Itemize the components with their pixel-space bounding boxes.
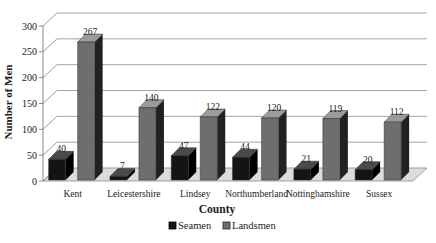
wall-diagonal-100	[43, 116, 57, 129]
value-label-seamen-leicestershire: 7	[120, 161, 125, 171]
x-axis-title: County	[199, 203, 236, 216]
value-label-seamen-lindsey: 47	[179, 141, 189, 151]
wall-diagonal-200	[43, 65, 57, 78]
y-tick-label-100: 100	[22, 124, 37, 135]
value-label-landsmen-kent: 267	[83, 27, 98, 37]
value-label-landsmen-northumberland: 120	[267, 103, 282, 113]
chart-canvas: 05010015020025030040267Kent7140Leicester…	[0, 0, 436, 243]
bar-landsmen-northumberland	[262, 118, 279, 180]
legend-swatch-landsmen	[223, 222, 230, 229]
value-label-seamen-kent: 40	[56, 144, 66, 154]
category-label-sussex: Sussex	[366, 189, 393, 199]
y-tick-label-300: 300	[22, 21, 37, 32]
bar-side-landsmen-northumberland	[279, 110, 287, 180]
value-label-seamen-sussex: 20	[363, 155, 373, 165]
legend-label-seamen: Seamen	[178, 220, 212, 231]
value-label-landsmen-leicestershire: 140	[144, 93, 159, 103]
y-tick-label-150: 150	[22, 98, 37, 109]
value-label-seamen-northumberland: 44	[240, 142, 250, 152]
bar-seamen-sussex	[355, 170, 372, 180]
value-label-landsmen-lindsey: 122	[206, 102, 221, 112]
bar-seamen-leicestershire	[110, 176, 127, 180]
wall-diagonal-250	[43, 39, 57, 52]
category-label-nottinghamshire: Nottinghamshire	[286, 189, 350, 199]
value-label-seamen-nottinghamshire: 21	[302, 154, 312, 164]
value-label-landsmen-sussex: 112	[390, 107, 404, 117]
bar-landsmen-leicestershire	[139, 108, 156, 180]
wall-diagonal-300	[43, 13, 57, 26]
value-label-landsmen-nottinghamshire: 119	[328, 104, 342, 114]
bar-side-landsmen-sussex	[401, 114, 409, 180]
y-axis-title: Number of Men	[2, 65, 14, 140]
bar-side-landsmen-leicestershire	[156, 100, 164, 180]
wall-diagonal-150	[43, 91, 57, 104]
category-label-northumberland: Northumberland	[225, 189, 288, 199]
bar-landsmen-lindsey	[200, 117, 217, 180]
bar-seamen-northumberland	[233, 157, 250, 180]
y-tick-label-250: 250	[22, 46, 37, 57]
y-tick-label-200: 200	[22, 72, 37, 83]
y-tick-label-50: 50	[27, 150, 37, 161]
bar-side-landsmen-nottinghamshire	[340, 111, 348, 180]
bar-landsmen-sussex	[384, 122, 401, 180]
bar-seamen-nottinghamshire	[294, 169, 311, 180]
bar-landsmen-nottinghamshire	[323, 119, 340, 180]
bar-seamen-lindsey	[171, 156, 188, 180]
category-label-leicestershire: Leicestershire	[107, 189, 160, 199]
legend-swatch-seamen	[169, 222, 176, 229]
bar-chart-3d: 05010015020025030040267Kent7140Leicester…	[0, 0, 436, 243]
bar-landsmen-kent	[78, 42, 95, 180]
category-label-kent: Kent	[63, 189, 82, 199]
category-label-lindsey: Lindsey	[180, 189, 211, 199]
bar-side-landsmen-kent	[95, 34, 103, 180]
bar-side-landsmen-lindsey	[217, 109, 225, 180]
y-tick-label-0: 0	[32, 176, 37, 187]
legend-label-landsmen: Landsmen	[232, 220, 276, 231]
bar-seamen-kent	[49, 159, 66, 180]
